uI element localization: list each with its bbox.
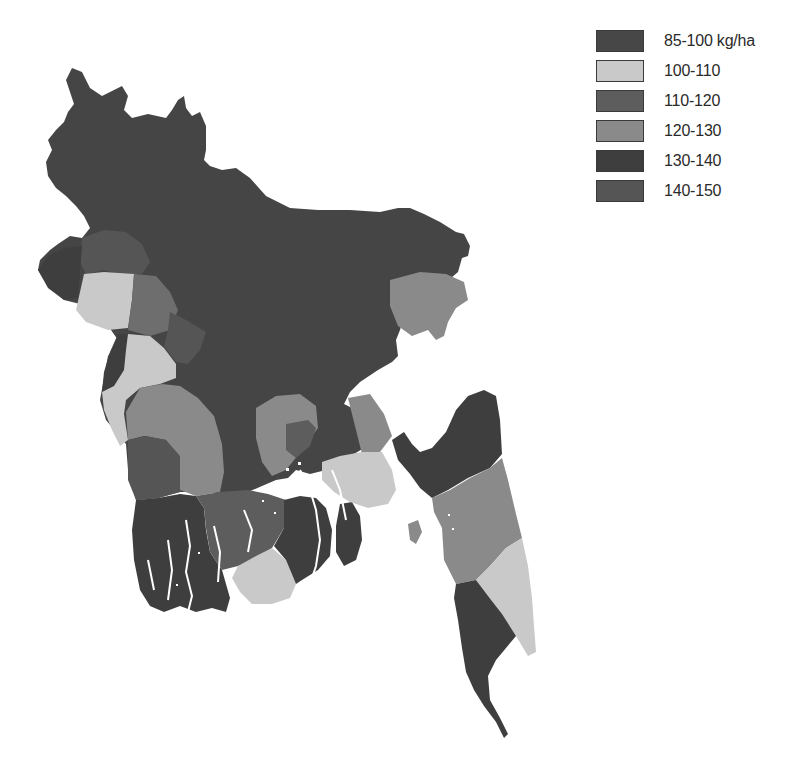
- legend-label: 100-110: [664, 62, 720, 80]
- legend-item: 85-100 kg/ha: [596, 26, 806, 56]
- legend-item: 140-150: [596, 176, 806, 206]
- region-northeast-mid: [390, 272, 468, 340]
- legend-label: 130-140: [664, 152, 721, 170]
- legend-swatch: [596, 150, 644, 172]
- legend-label: 120-130: [664, 122, 721, 140]
- region-bhola: [336, 502, 362, 566]
- legend-label: 110-120: [664, 92, 720, 110]
- region-west-tip: [38, 246, 82, 300]
- legend-swatch: [596, 90, 644, 112]
- region-rajshahi-light: [76, 272, 134, 330]
- legend-swatch: [596, 60, 644, 82]
- legend-label: 85-100 kg/ha: [664, 32, 755, 50]
- legend-item: 130-140: [596, 146, 806, 176]
- legend-label: 140-150: [664, 182, 721, 200]
- legend-item: 110-120: [596, 86, 806, 116]
- legend-swatch: [596, 30, 644, 52]
- region-noakhali-light: [322, 452, 396, 508]
- legend-swatch: [596, 120, 644, 142]
- region-island: [408, 520, 422, 544]
- legend-item: 100-110: [596, 56, 806, 86]
- legend-item: 120-130: [596, 116, 806, 146]
- map-legend: 85-100 kg/ha 100-110 110-120 120-130 130…: [596, 26, 806, 206]
- legend-swatch: [596, 180, 644, 202]
